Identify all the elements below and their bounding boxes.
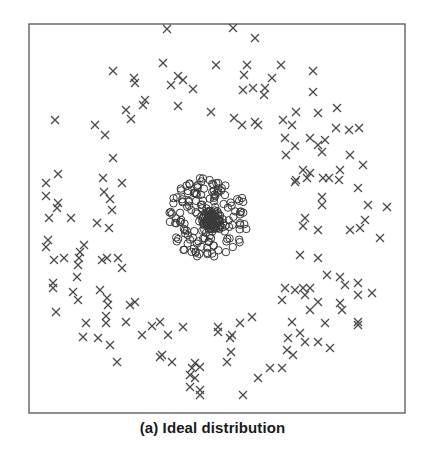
scatter-plot: [0, 0, 425, 453]
figure: (a) Ideal distribution: [0, 0, 425, 453]
figure-caption: (a) Ideal distribution: [0, 419, 425, 436]
